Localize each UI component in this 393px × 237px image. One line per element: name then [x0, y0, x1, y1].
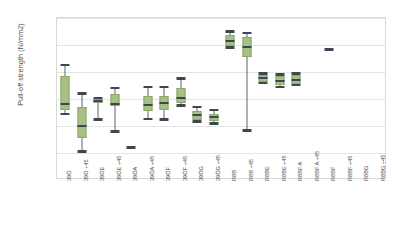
x-axis-tick-label: R8BE +45: [281, 155, 287, 181]
median-line: [94, 100, 103, 102]
boxplot-item: [354, 18, 371, 180]
x-axis-tick-label: R8BF: [330, 167, 336, 181]
boxplot-item: [239, 18, 256, 180]
x-axis-tick-label: R8B: [231, 170, 237, 181]
x-axis-tick-label: 39ÖF: [165, 167, 171, 181]
box-rect: [77, 107, 86, 138]
boxplot-item: [288, 18, 305, 180]
whisker-cap-low: [160, 118, 169, 121]
median-line: [160, 102, 169, 104]
boxplot-item: [74, 18, 91, 180]
box-rect: [176, 88, 185, 103]
data-point-marker: [325, 48, 334, 51]
x-axis-tick-label: R8BF A: [297, 162, 303, 181]
whisker-cap-high: [176, 77, 185, 80]
whisker-cap-low: [292, 84, 301, 87]
x-axis-tick-label: R8BG +45: [380, 155, 386, 181]
median-line: [292, 79, 301, 81]
x-axis-tick-label: 39Ö +45: [83, 159, 89, 181]
x-axis-tick-label: 39ÖG +45: [215, 155, 221, 181]
boxplot-item: [255, 18, 272, 180]
whisker-cap-low: [259, 82, 268, 85]
whisker-cap-low: [94, 118, 103, 121]
whisker-cap-low: [209, 122, 218, 125]
whisker-cap-low: [110, 130, 119, 133]
x-axis-tick-label: 39Ö: [66, 170, 72, 181]
boxplot-chart: Pull-off strength (N/mm2) 3,53,02,52,01,…: [0, 0, 393, 237]
plot-area: [56, 17, 386, 179]
whisker-cap-high: [77, 92, 86, 95]
x-axis-tick-label: 39ÖA: [132, 167, 138, 181]
median-line: [259, 77, 268, 79]
x-axis-tick-label: 39ÖE: [99, 167, 105, 181]
x-axis-tick-label: 39ÖF +45: [182, 156, 188, 181]
median-line: [61, 103, 70, 105]
boxplot-item: [123, 18, 140, 180]
median-line: [176, 97, 185, 99]
whisker-cap-low: [242, 129, 251, 132]
whisker-cap-low: [61, 113, 70, 116]
x-axis-tick-label: R8BF +45: [347, 156, 353, 181]
whisker-cap-low: [143, 118, 152, 121]
data-point-marker: [127, 146, 136, 149]
boxplot-item: [189, 18, 206, 180]
x-axis-tick-label: 39ÖG: [198, 166, 204, 181]
boxplot-item: [156, 18, 173, 180]
x-axis-tick-label: R8BG: [363, 166, 369, 181]
whisker-cap-low: [226, 46, 235, 49]
median-line: [226, 40, 235, 42]
whisker-cap-high: [193, 106, 202, 109]
whisker-cap-high: [110, 87, 119, 90]
x-axis-tick-label: R8BF A +45: [314, 151, 320, 181]
whisker-cap-high: [226, 30, 235, 33]
whisker-cap-low: [176, 104, 185, 107]
whisker-cap-high: [209, 109, 218, 112]
median-line: [77, 125, 86, 127]
boxplot-item: [222, 18, 239, 180]
x-axis-tick-label: R8BE: [264, 166, 270, 181]
whisker-cap-low: [77, 150, 86, 153]
x-axis-tick-layer: 39Ö39Ö +4539ÖE39ÖE +4539ÖA39ÖA +4539ÖF39…: [0, 179, 393, 237]
x-axis-tick-label: 39ÖA +45: [149, 156, 155, 181]
x-axis-tick-label: R8B +45: [248, 159, 254, 181]
median-line: [275, 80, 284, 82]
median-line: [242, 46, 251, 48]
median-line: [110, 103, 119, 105]
boxplot-item: [321, 18, 338, 180]
whisker-cap-low: [193, 120, 202, 123]
whisker-cap-low: [275, 86, 284, 89]
median-line: [143, 104, 152, 106]
whisker-cap-high: [61, 64, 70, 67]
boxplot-item: [90, 18, 107, 180]
median-line: [193, 114, 202, 116]
whisker-cap-high: [242, 32, 251, 35]
median-line: [209, 116, 218, 118]
whisker-cap-high: [143, 86, 152, 89]
x-axis-tick-label: 39ÖE +45: [116, 156, 122, 181]
whisker-cap-high: [160, 86, 169, 89]
boxplot-item: [57, 18, 74, 180]
